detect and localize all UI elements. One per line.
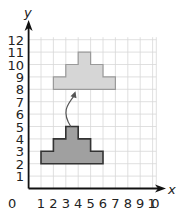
x-tick-label: 10 <box>148 196 160 211</box>
translated-image-shape <box>53 52 115 89</box>
translation-arrow <box>66 95 75 126</box>
y-tick-labels: 123456789101112 <box>7 33 24 184</box>
y-axis-label: y <box>23 5 32 20</box>
original-shape <box>41 127 103 164</box>
x-tick-label: 4 <box>74 196 82 211</box>
x-tick-label: 5 <box>86 196 94 211</box>
x-tick-label: 6 <box>99 196 107 211</box>
origin-label: 0 <box>8 196 16 211</box>
x-tick-label: 1 <box>37 196 45 211</box>
y-tick-label: 12 <box>7 33 24 48</box>
grid-lines <box>29 37 157 188</box>
x-tick-label: 2 <box>49 196 57 211</box>
x-tick-label: 7 <box>111 196 119 211</box>
translation-arrowhead-icon <box>70 91 76 98</box>
coordinate-grid-diagram: y x 0 12345678910 123456789101112 <box>0 0 186 215</box>
x-tick-labels: 12345678910 <box>37 196 160 211</box>
x-tick-label: 8 <box>124 196 132 211</box>
x-tick-label: 9 <box>136 196 144 211</box>
x-axis-label: x <box>167 182 176 197</box>
x-tick-label: 3 <box>62 196 70 211</box>
